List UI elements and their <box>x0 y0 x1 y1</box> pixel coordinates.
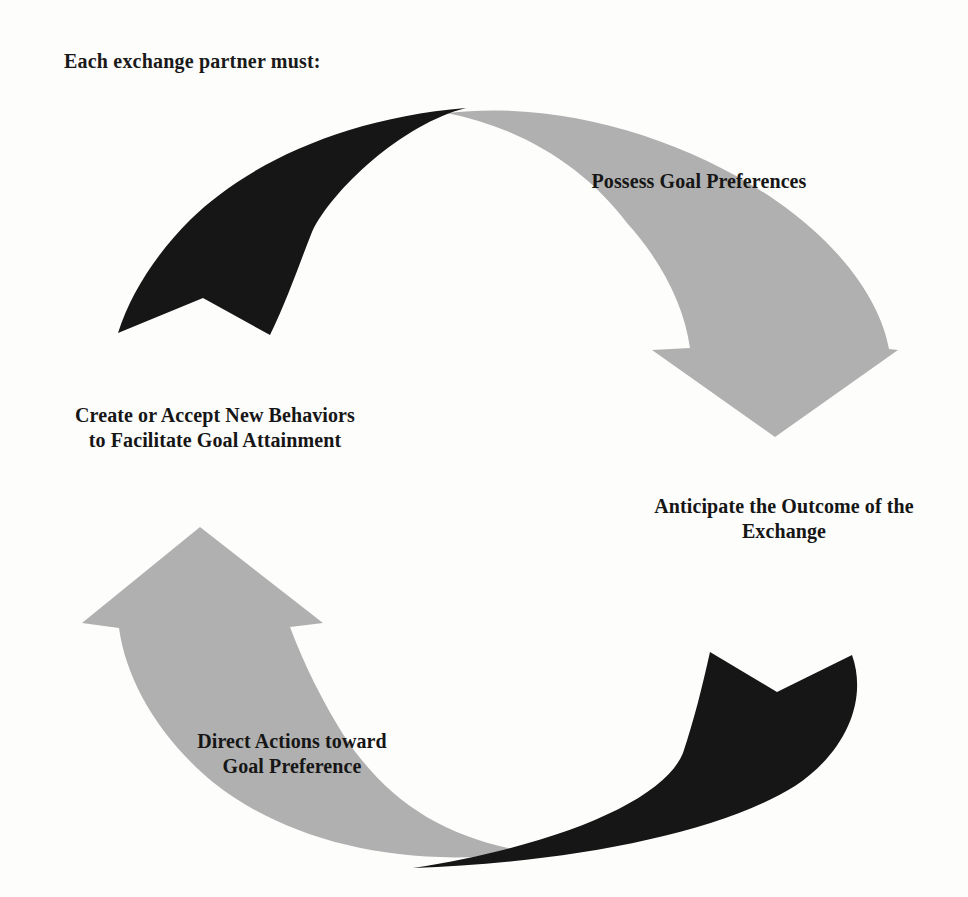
step-label-direct-actions: Direct Actions toward Goal Preference <box>197 729 386 779</box>
step-label-line: Direct Actions toward <box>197 729 386 754</box>
dark-arrow-top-left-icon <box>118 108 466 335</box>
step-label-line: to Facilitate Goal Attainment <box>75 428 355 453</box>
step-label-line: Goal Preference <box>197 754 386 779</box>
gray-arrow-bottom-left-icon <box>82 527 528 857</box>
step-label-anticipate-outcome: Anticipate the Outcome of the Exchange <box>654 494 914 544</box>
gray-arrow-top-right-icon <box>447 110 898 437</box>
step-label-line: Exchange <box>654 519 914 544</box>
dark-arrow-bottom-right-icon <box>413 652 857 868</box>
step-label-possess-goal-preferences: Possess Goal Preferences <box>592 169 807 194</box>
figure-page: Each exchange partner must: Possess Goal… <box>0 0 968 897</box>
step-label-create-accept-behaviors: Create or Accept New Behaviors to Facili… <box>75 403 355 453</box>
step-label-line: Create or Accept New Behaviors <box>75 403 355 428</box>
step-label-line: Possess Goal Preferences <box>592 169 807 194</box>
step-label-line: Anticipate the Outcome of the <box>654 494 914 519</box>
